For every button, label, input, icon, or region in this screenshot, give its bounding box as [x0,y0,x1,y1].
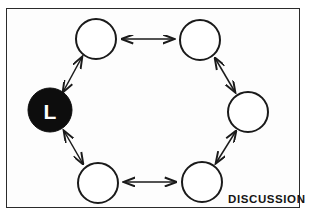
figure-caption: DISCUSSION [228,193,306,205]
node-participant-right[interactable] [228,92,268,132]
figure-root: L DISCUSSION [0,0,311,222]
node-participant-bottom-left[interactable] [78,163,118,203]
edge-p5-leader [64,131,83,164]
edge-p3-p4 [216,131,236,163]
node-participant-bottom-right[interactable] [182,162,222,202]
node-group: L [28,19,268,203]
discussion-ring-diagram: L [0,0,311,222]
node-participant-top-right[interactable] [180,20,220,60]
node-participant-top-left[interactable] [76,19,116,59]
edge-leader-p1 [63,57,82,92]
node-leader-label: L [44,100,57,123]
edge-group [63,39,236,182]
edge-p2-p3 [215,58,235,92]
